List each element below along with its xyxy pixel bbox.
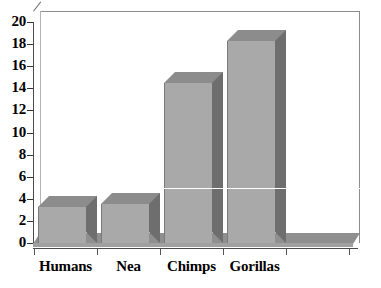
- bar-chimps: [164, 83, 212, 243]
- y-axis-label: 20: [0, 14, 26, 29]
- y-axis-label: 10: [0, 125, 26, 140]
- bar-nea: [101, 204, 149, 243]
- bar-gorillas: [227, 41, 275, 243]
- bar-top-face: [227, 30, 275, 42]
- x-axis-tick: [286, 249, 287, 255]
- x-axis-tick: [34, 249, 35, 255]
- x-axis-label-humans: Humans: [34, 258, 97, 274]
- x-axis-label-nea: Nea: [97, 258, 160, 274]
- bar-top-face: [38, 196, 86, 208]
- bar-side-face: [212, 72, 223, 232]
- y-axis-label: 0: [0, 235, 26, 250]
- bar-side-face: [275, 30, 286, 232]
- y-axis-tick: [27, 110, 33, 111]
- y-axis-label: 18: [0, 36, 26, 51]
- y-axis-tick: [27, 133, 33, 134]
- y-axis-label: 6: [0, 169, 26, 184]
- y-axis-label: 16: [0, 58, 26, 73]
- bar-humans: [38, 207, 86, 243]
- y-axis-tick: [27, 66, 33, 67]
- bar-front-face: [227, 41, 275, 243]
- y-axis-tick: [27, 44, 33, 45]
- bar-front-face: [101, 204, 149, 243]
- x-axis-label-gorillas: Gorillas: [223, 258, 286, 274]
- y-axis-tick: [27, 22, 33, 23]
- bar-top-face: [101, 193, 149, 205]
- x-axis-tick: [349, 249, 350, 255]
- x-axis-tick: [223, 249, 224, 255]
- y-axis-label: 2: [0, 213, 26, 228]
- x-axis-label-chimps: Chimps: [160, 258, 223, 274]
- y-axis-label: 14: [0, 80, 26, 95]
- y-axis-tick: [27, 221, 33, 222]
- y-axis-label: 8: [0, 147, 26, 162]
- x-axis-tick: [160, 249, 161, 255]
- bar-chart: 02468101214161820 HumansNeaChimpsGorilla…: [0, 0, 381, 288]
- y-axis-label: 4: [0, 191, 26, 206]
- x-axis-line: [33, 248, 358, 249]
- plot-depth-edge: [33, 11, 42, 23]
- bar-front-face: [164, 83, 212, 243]
- y-axis-tick: [27, 243, 33, 244]
- y-axis-tick: [27, 199, 33, 200]
- y-axis-tick: [27, 155, 33, 156]
- y-axis-tick: [27, 88, 33, 89]
- y-axis-tick: [27, 177, 33, 178]
- bar-top-face: [164, 72, 212, 84]
- bar-front-face: [38, 207, 86, 243]
- gridline: [41, 188, 360, 189]
- y-axis-label: 12: [0, 102, 26, 117]
- x-axis-tick: [97, 249, 98, 255]
- y-axis-line: [33, 22, 34, 243]
